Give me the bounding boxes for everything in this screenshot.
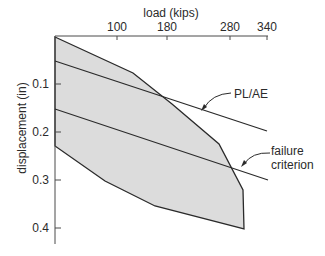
x-axis-title: load (kips) (143, 6, 198, 20)
y-tick-label: 0.4 (32, 221, 49, 235)
failure-criterion-label-line2: criterion (271, 158, 314, 172)
x-tick-label: 100 (107, 20, 127, 34)
y-tick-label: 0.3 (32, 173, 49, 187)
y-tick-label: 0.1 (32, 77, 49, 91)
pl-ae-label: PL/AE (234, 87, 268, 101)
load-displacement-chart: 100 180 280 340 load (kips) 0.1 0.2 0.3 … (0, 0, 325, 256)
failure-leader-arrow (244, 153, 270, 164)
x-tick-label: 340 (257, 20, 277, 34)
y-tick-label: 0.2 (32, 125, 49, 139)
x-tick-label: 280 (220, 20, 240, 34)
x-tick-label: 180 (157, 20, 177, 34)
envelope-region (55, 37, 244, 229)
failure-criterion-label-line1: failure (271, 144, 304, 158)
pl-ae-leader-arrow (204, 93, 231, 108)
y-axis-title: displacement (in) (15, 82, 29, 173)
